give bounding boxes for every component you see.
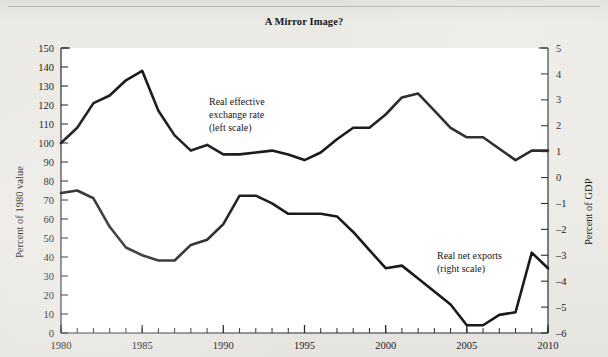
y-axis-left-tick-label: 130	[38, 81, 54, 92]
annotation-net-exports-line2: (right scale)	[437, 263, 485, 275]
y-axis-right-tick-label: –5	[555, 302, 567, 313]
y-axis-left-tick-label: 90	[44, 157, 55, 168]
y-axis-left-tick-label: 40	[44, 252, 55, 263]
y-axis-left-tick-label: 10	[44, 309, 55, 320]
figure-container: A Mirror Image? 010203040506070809010011…	[0, 0, 608, 357]
annotation-exchange-rate-line2: exchange rate	[209, 109, 265, 120]
y-axis-right-tick-label: –3	[555, 250, 567, 261]
y-axis-left-tick-labels: 0102030405060708090100110120130140150	[38, 43, 54, 339]
y-axis-right-tick-label: 5	[556, 43, 561, 54]
x-axis-tick-label: 1985	[132, 340, 153, 351]
y-axis-left-tick-label: 120	[38, 100, 54, 111]
y-axis-right-tick-labels: –6–5–4–3–2–1012345	[555, 43, 567, 339]
y-axis-right-tick-label: –6	[555, 328, 567, 339]
y-axis-right-tick-label: –4	[555, 276, 567, 287]
y-axis-left-tick-label: 0	[49, 328, 54, 339]
y-axis-right-tick-label: 1	[556, 146, 561, 157]
y-axis-left-tick-label: 150	[38, 43, 54, 54]
x-axis-tick-label: 1990	[213, 340, 234, 351]
y-axis-right-tick-label: 4	[556, 69, 562, 80]
y-axis-right-tick-label: 2	[556, 120, 561, 131]
plot-background	[61, 48, 548, 333]
y-axis-left-tick-label: 140	[38, 62, 54, 73]
y-axis-right-tick-label: 0	[556, 172, 561, 183]
y-axis-right-title: Percent of GDP	[583, 178, 594, 245]
y-axis-left-tick-label: 80	[44, 176, 55, 187]
x-axis-tick-labels: 1980198519901995200020052010	[51, 340, 559, 351]
y-axis-left-tick-label: 30	[44, 271, 55, 282]
y-axis-left-tick-label: 70	[44, 195, 55, 206]
y-axis-left-tick-label: 50	[44, 233, 55, 244]
annotation-exchange-rate-line3: (left scale)	[209, 122, 251, 134]
y-axis-left-tick-label: 100	[38, 138, 54, 149]
annotation-net-exports-line1: Real net exports	[437, 250, 502, 261]
y-axis-right-tick-label: –2	[555, 224, 567, 235]
y-axis-right-tick-label: –1	[555, 198, 567, 209]
y-axis-left-tick-label: 20	[44, 290, 55, 301]
y-axis-left-title: Percent of 1980 value	[14, 166, 25, 258]
chart-plot-area: 0102030405060708090100110120130140150 –6…	[0, 0, 608, 357]
y-axis-left-tick-label: 110	[39, 119, 54, 130]
y-axis-right-tick-label: 3	[556, 94, 561, 105]
x-axis-tick-label: 2010	[538, 340, 559, 351]
x-axis-tick-label: 2005	[456, 340, 477, 351]
x-axis-tick-label: 1995	[294, 340, 315, 351]
x-axis-tick-label: 2000	[375, 340, 396, 351]
annotation-exchange-rate-line1: Real effective	[209, 96, 265, 107]
y-axis-left-tick-label: 60	[44, 214, 55, 225]
x-axis-tick-label: 1980	[51, 340, 72, 351]
